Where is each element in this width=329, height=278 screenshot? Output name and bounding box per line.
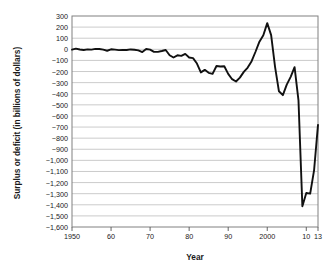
x-axis-tick-label: 10 xyxy=(302,232,310,241)
x-axis-title: Year xyxy=(72,252,318,262)
x-axis-tick-label: 60 xyxy=(107,232,115,241)
x-axis-tick-label: 13 xyxy=(314,232,322,241)
x-axis-tick-label: 70 xyxy=(146,232,154,241)
x-axis-tick-label: 2000 xyxy=(259,232,275,241)
x-axis-tick-label: 90 xyxy=(224,232,232,241)
x-axis-tick-label: 1950 xyxy=(64,232,80,241)
x-axis-tick-label: 80 xyxy=(185,232,193,241)
chart-plot-area xyxy=(0,0,329,278)
plot-background xyxy=(72,16,318,227)
chart-figure: Surplus or deficit (in billions of dolla… xyxy=(0,0,329,278)
